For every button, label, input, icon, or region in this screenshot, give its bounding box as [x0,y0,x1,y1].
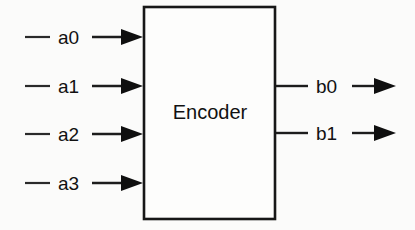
input-port-a0: a0 [25,27,143,48]
input-label-a0: a0 [58,27,79,48]
output-arrowhead-b1 [374,125,396,141]
output-arrowhead-b0 [374,78,396,94]
output-port-b1: b1 [276,123,396,144]
input-arrowhead-a2 [121,126,143,142]
input-label-a2: a2 [58,124,79,145]
output-label-b1: b1 [316,123,337,144]
input-arrowhead-a0 [121,29,143,45]
input-port-a1: a1 [25,76,143,97]
input-arrowhead-a1 [121,78,143,94]
input-label-a1: a1 [58,76,79,97]
input-arrowhead-a3 [121,175,143,191]
input-port-a2: a2 [25,124,143,145]
input-label-a3: a3 [58,173,79,194]
input-port-a3: a3 [25,173,143,194]
encoder-block-label: Encoder [173,101,248,123]
output-port-b0: b0 [276,76,396,97]
output-label-b0: b0 [316,76,337,97]
encoder-diagram: a0 a1 a2 a3 Encoder [0,0,415,230]
diagram-canvas: a0 a1 a2 a3 Encoder [0,0,415,230]
